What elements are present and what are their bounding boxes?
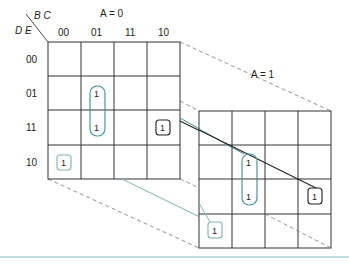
svg-text:01: 01 [26,88,38,99]
karnaugh-map-diagram: B C D E A = 0 A = 1 00 01 11 10 00 01 11… [0,0,349,267]
svg-text:00: 00 [26,54,38,65]
map-a1-grid [199,111,331,248]
svg-text:00: 00 [58,27,70,38]
cell-one: 1 [61,158,66,168]
svg-text:11: 11 [125,27,136,38]
map-a0-grid [48,42,180,179]
col-headers: 00 01 11 10 [58,27,170,38]
cell-one: 1 [94,89,99,99]
cell-one: 1 [312,192,317,202]
col-var-label: B C [34,10,51,21]
row-headers: 00 01 11 10 [26,54,38,168]
cell-one: 1 [212,226,217,236]
map-a0-title: A = 0 [100,8,124,19]
cell-one: 1 [94,123,99,133]
row-var-label: D E [15,25,32,36]
group-link-lightteal [122,179,210,222]
svg-text:10: 10 [26,157,38,168]
cell-one: 1 [160,123,165,133]
svg-text:10: 10 [158,27,170,38]
cell-one: 1 [246,192,251,202]
svg-text:01: 01 [91,27,103,38]
map-a1-title: A = 1 [251,69,275,80]
svg-text:11: 11 [26,122,37,133]
cell-one: 1 [246,158,251,168]
